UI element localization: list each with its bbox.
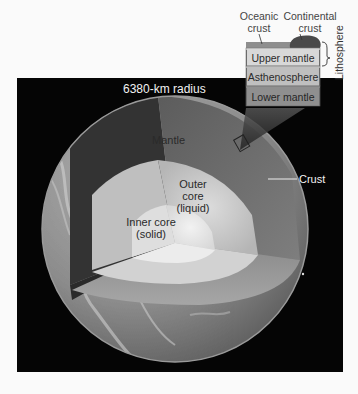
upper-mantle-label: Upper mantle [246, 50, 320, 66]
radius-label: 6380-km radius [123, 83, 206, 95]
crust-label: Crust [299, 173, 325, 185]
mantle-label: Mantle [152, 134, 185, 146]
inner-core-label-line2: (solid) [118, 228, 184, 240]
outer-core-label-line3: (liquid) [168, 202, 218, 214]
oceanic-crust-label: Oceanic crust [236, 10, 282, 34]
inner-core-label-line1: Inner core [118, 216, 184, 228]
continental-crust-label-line2: crust [282, 22, 338, 34]
oceanic-crust-label-line1: Oceanic [236, 10, 282, 22]
asthenosphere-label: Asthenosphere [246, 68, 320, 86]
lithosphere-label: Lithosphere [333, 25, 345, 80]
earth-structure-diagram: 6380-km radius Mantle Outer core (liquid… [0, 0, 358, 394]
continental-crust-label: Continental crust [282, 10, 338, 34]
outer-core-label-line2: core [168, 190, 218, 202]
oceanic-crust-label-line2: crust [236, 22, 282, 34]
outer-core-label-line1: Outer [168, 178, 218, 190]
continental-crust-label-line1: Continental [282, 10, 338, 22]
outer-core-label: Outer core (liquid) [168, 178, 218, 214]
inner-core-label: Inner core (solid) [118, 216, 184, 240]
lower-mantle-label: Lower mantle [246, 88, 320, 106]
